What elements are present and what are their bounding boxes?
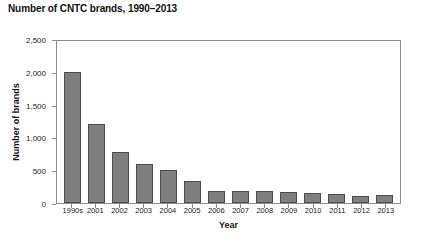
bar-2009 bbox=[280, 192, 297, 203]
y-tick-label: 1,500 bbox=[26, 101, 46, 110]
bar-2007 bbox=[232, 191, 249, 203]
x-axis-title: Year bbox=[56, 220, 401, 230]
x-tick-label: 2005 bbox=[184, 206, 201, 220]
x-tick-label: 2010 bbox=[305, 206, 322, 220]
bar-2006 bbox=[208, 191, 225, 203]
y-tick-label: 0 bbox=[42, 200, 46, 209]
bar-2012 bbox=[352, 196, 369, 203]
y-axis-tick-labels: 05001,0001,5002,0002,500 bbox=[0, 40, 52, 204]
bar-2005 bbox=[184, 181, 201, 203]
x-tick-label: 2006 bbox=[208, 206, 225, 220]
x-tick-label: 2011 bbox=[329, 206, 346, 220]
bar-2004 bbox=[160, 170, 177, 203]
x-tick-label: 2002 bbox=[111, 206, 128, 220]
bar-2013 bbox=[376, 195, 393, 203]
x-tick-label: 2013 bbox=[377, 206, 394, 220]
x-tick-label: 1990s bbox=[63, 206, 80, 220]
y-tick-label: 2,500 bbox=[26, 36, 46, 45]
x-tick-label: 2003 bbox=[135, 206, 152, 220]
x-axis-tick-labels: 1990s20012002200320042005200620072008200… bbox=[56, 206, 401, 220]
x-tick-label: 2004 bbox=[159, 206, 176, 220]
bar-1990s bbox=[64, 72, 81, 203]
x-tick-label: 2009 bbox=[280, 206, 297, 220]
bar-2008 bbox=[256, 191, 273, 203]
x-tick-label: 2007 bbox=[232, 206, 249, 220]
y-tick-label: 2,000 bbox=[26, 68, 46, 77]
bar-2010 bbox=[304, 193, 321, 203]
x-tick-label: 2008 bbox=[256, 206, 273, 220]
y-tick-label: 500 bbox=[33, 167, 46, 176]
y-tick-label: 1,000 bbox=[26, 134, 46, 143]
chart-title: Number of CNTC brands, 1990–2013 bbox=[8, 3, 177, 14]
x-tick-label: 2012 bbox=[353, 206, 370, 220]
bar-2003 bbox=[136, 164, 153, 203]
chart-figure: Number of CNTC brands, 1990–2013 Number … bbox=[0, 0, 448, 249]
bar-2002 bbox=[112, 152, 129, 203]
bar-2001 bbox=[88, 124, 105, 203]
bar-series bbox=[57, 41, 400, 203]
x-tick-label: 2001 bbox=[87, 206, 104, 220]
bar-2011 bbox=[328, 194, 345, 204]
plot-area bbox=[56, 40, 401, 204]
